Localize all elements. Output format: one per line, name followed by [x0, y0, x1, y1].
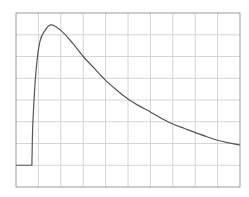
gridlines	[16, 13, 240, 187]
chart	[0, 0, 249, 197]
